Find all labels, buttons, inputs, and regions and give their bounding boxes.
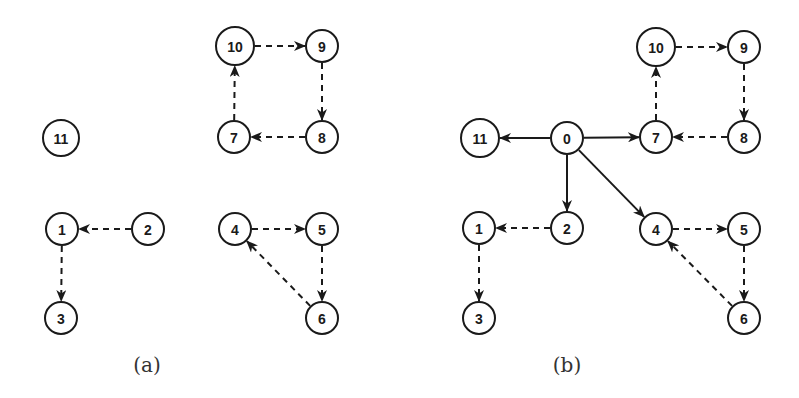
node-label: 7 [230, 130, 238, 146]
node-label: 9 [318, 39, 326, 55]
node-1: 1 [46, 213, 78, 245]
node-label: 11 [473, 131, 488, 147]
node-label: 10 [227, 39, 243, 55]
node-3: 3 [463, 302, 495, 334]
node-label: 6 [318, 311, 326, 327]
node-label: 1 [475, 221, 483, 237]
node-label: 10 [648, 40, 664, 56]
node-label: 6 [740, 311, 748, 327]
node-label: 2 [144, 222, 152, 238]
node-label: 3 [57, 311, 65, 327]
node-label: 2 [563, 221, 571, 237]
node-6: 6 [306, 302, 338, 334]
node-label: 5 [740, 222, 748, 238]
node-label: 1 [58, 222, 66, 238]
edge-1-to-3 [61, 246, 62, 301]
node-label: 9 [740, 40, 748, 56]
node-label: 5 [318, 222, 326, 238]
node-8: 8 [728, 121, 760, 153]
edge-6-to-4 [247, 241, 310, 306]
panel-b: 10911078124536 (b) [461, 28, 760, 377]
node-6: 6 [728, 302, 760, 334]
edge-6-to-4 [668, 241, 732, 306]
node-10: 10 [637, 28, 675, 66]
graph-diagram: 1091178124536 (a) 10911078124536 (b) [0, 0, 799, 398]
node-label: 8 [740, 130, 748, 146]
edges-layer [479, 47, 744, 306]
node-2: 2 [551, 212, 583, 244]
node-2: 2 [132, 213, 164, 245]
node-label: 7 [652, 130, 660, 146]
node-9: 9 [306, 30, 338, 62]
panel-caption: (a) [133, 353, 161, 377]
edges-layer [61, 46, 322, 306]
node-1: 1 [463, 212, 495, 244]
node-8: 8 [306, 121, 338, 153]
node-label: 0 [563, 131, 571, 147]
node-4: 4 [219, 213, 251, 245]
edge-7-to-10 [234, 66, 235, 120]
edge-0-to-7 [584, 137, 639, 138]
node-7: 7 [218, 121, 250, 153]
panel-a: 1091178124536 (a) [43, 27, 338, 377]
node-9: 9 [728, 31, 760, 63]
node-label: 4 [231, 222, 239, 238]
node-3: 3 [45, 302, 77, 334]
node-4: 4 [640, 213, 672, 245]
node-5: 5 [728, 213, 760, 245]
node-label: 11 [54, 131, 69, 147]
node-10: 10 [216, 27, 254, 65]
node-11: 11 [461, 119, 499, 157]
node-label: 8 [318, 130, 326, 146]
node-11: 11 [43, 120, 79, 156]
node-0: 0 [551, 122, 583, 154]
panel-caption: (b) [553, 353, 581, 377]
edge-0-to-4 [579, 150, 644, 217]
node-7: 7 [640, 121, 672, 153]
node-label: 3 [475, 311, 483, 327]
node-5: 5 [306, 213, 338, 245]
node-label: 4 [652, 222, 660, 238]
